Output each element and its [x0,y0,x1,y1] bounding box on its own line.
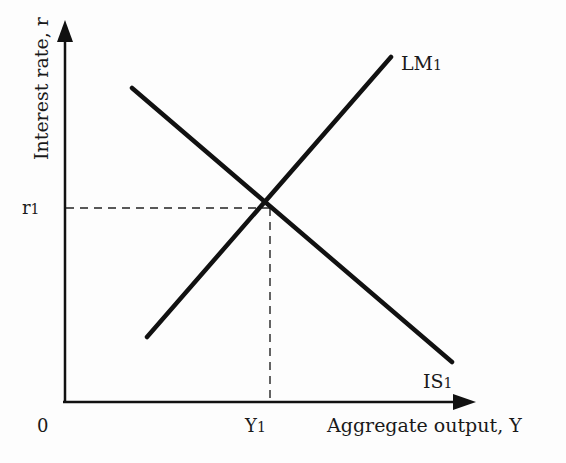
lm-curve [147,57,391,337]
x-axis-label: Aggregate output, Y [326,414,522,436]
origin-label: 0 [37,415,48,436]
y-axis-label: Interest rate, r [30,16,52,160]
x-axis-arrow-icon [453,394,476,410]
is-curve [132,88,452,362]
lm-label: LM1 [401,52,442,74]
y-axis-arrow-icon [57,20,73,42]
is-lm-diagram: Interest rate, r r1 LM1 IS1 0 Y1 Aggrega… [0,0,566,463]
r1-label: r1 [22,197,40,218]
is-label: IS1 [423,370,452,392]
y1-label: Y1 [244,415,266,436]
